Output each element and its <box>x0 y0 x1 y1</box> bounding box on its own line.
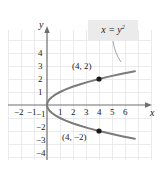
equation-exponent: 2 <box>122 24 125 30</box>
y-tick-label-neg3: −3 <box>36 136 46 145</box>
graph-figure: 4 3 2 1 −1 −2 −3 −4 −2 −1 1 2 3 4 5 6 y … <box>0 0 162 179</box>
y-tick-label-neg4: −4 <box>36 149 46 158</box>
x-tick-label-3: 3 <box>84 108 89 117</box>
y-tick-label-neg2: −2 <box>36 123 46 132</box>
x-axis-label: x <box>150 108 154 118</box>
y-tick-label-1: 1 <box>38 88 43 97</box>
equation-text: x = y2 <box>101 24 125 35</box>
x-tick-label-1: 1 <box>58 108 63 117</box>
x-tick-label-neg2: −2 <box>14 108 24 117</box>
x-tick-label-5: 5 <box>110 108 115 117</box>
data-point-4-2 <box>96 76 101 81</box>
equation-base: x = y <box>101 25 122 36</box>
data-point-4-neg2 <box>96 128 101 133</box>
point-label-4-neg2: (4, −2) <box>62 133 87 142</box>
y-tick-label-neg1: −1 <box>36 110 46 119</box>
y-tick-label-2: 2 <box>38 75 43 84</box>
callout-leader-line <box>113 41 121 62</box>
y-axis-label: y <box>39 20 43 30</box>
point-label-4-2: (4, 2) <box>72 62 92 71</box>
x-tick-label-neg1: −1 <box>27 108 37 117</box>
y-axis-arrow <box>44 26 49 33</box>
equation-callout: x = y2 <box>88 20 138 40</box>
y-tick-label-3: 3 <box>38 62 43 71</box>
x-tick-label-2: 2 <box>71 108 76 117</box>
x-tick-label-6: 6 <box>123 108 128 117</box>
y-tick-label-4: 4 <box>38 49 43 58</box>
x-tick-label-4: 4 <box>97 108 102 117</box>
